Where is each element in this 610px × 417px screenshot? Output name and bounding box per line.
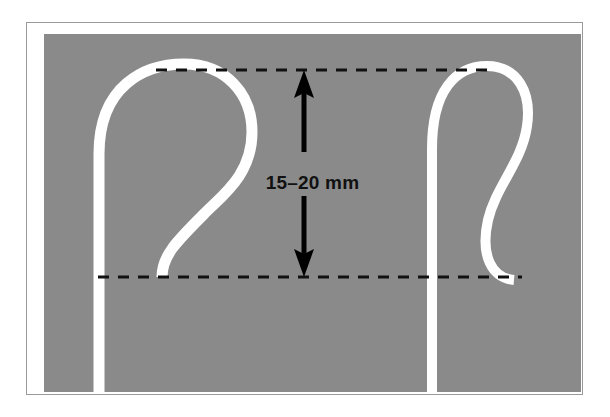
diagram-canvas <box>44 34 581 392</box>
catheter-left-path <box>99 64 252 392</box>
dimension-label: 15–20 mm <box>44 172 581 194</box>
illustration-panel: 15–20 mm <box>44 34 581 392</box>
catheter-right-path <box>432 66 528 392</box>
catheter-loop-right <box>432 66 528 392</box>
figure-root: 15–20 mm <box>0 0 610 417</box>
catheter-loop-left <box>99 64 252 392</box>
